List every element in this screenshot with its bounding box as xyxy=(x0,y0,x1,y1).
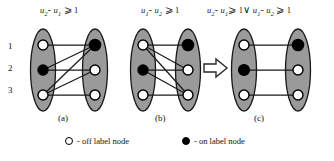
implies-arrow xyxy=(203,57,229,79)
row-label-2: 2 xyxy=(8,63,13,73)
constraint-label-b: u1- u2 ⩾ 1 xyxy=(141,4,180,17)
panel-caption-a: (a) xyxy=(58,113,68,123)
row-label-1: 1 xyxy=(8,41,13,51)
constraint-c-relation: ⩾ xyxy=(228,5,236,15)
constraint-a-sub2: 1 xyxy=(58,10,61,17)
legend-label-on: - on label node xyxy=(194,136,245,146)
right-node-3-a xyxy=(90,90,100,100)
figure-container: 1 2 3 u2- u1 ⩾ 1 u1- u2 ⩾ 1 u2- u1⩾ 1∨ u… xyxy=(0,0,334,161)
row-label-3: 3 xyxy=(8,85,13,95)
left-node-3-a xyxy=(38,90,48,100)
constraint-b-sub2: 2 xyxy=(159,10,162,17)
legend-entry-off: - off label node xyxy=(65,136,129,146)
right-node-2-b xyxy=(183,65,193,75)
constraint-c-rhs-sub2: 2 xyxy=(271,10,274,17)
right-node-3-c xyxy=(293,90,303,100)
constraint-label-a: u2- u1 ⩾ 1 xyxy=(40,4,79,17)
constraint-b-minus: - xyxy=(149,5,152,15)
panel-a xyxy=(26,26,116,114)
panel-c xyxy=(227,26,317,114)
constraint-a-minus: - xyxy=(48,5,51,15)
constraint-a-relation: ⩾ xyxy=(64,5,72,15)
panel-caption-c: (c) xyxy=(254,113,264,123)
right-node-3-b xyxy=(183,90,193,100)
legend-label-off: - off label node xyxy=(77,136,129,146)
left-node-3-b xyxy=(138,90,148,100)
constraint-c-minus: - xyxy=(215,5,218,15)
constraint-b-value: 1 xyxy=(175,5,179,15)
constraint-c-rhs-relation: ⩾ xyxy=(276,5,284,15)
panel-c-graph xyxy=(227,26,317,114)
right-node-2-a xyxy=(90,65,100,75)
left-node-1-c xyxy=(239,40,249,50)
implies-arrow-icon xyxy=(203,57,229,79)
on-label-node-icon xyxy=(182,137,190,145)
panel-caption-b: (b) xyxy=(155,113,166,123)
panel-a-graph xyxy=(26,26,116,114)
left-node-1-b xyxy=(138,40,148,50)
left-node-3-c xyxy=(239,90,249,100)
right-node-1-a xyxy=(89,39,100,50)
constraint-c-rhs-minus: - xyxy=(260,5,263,15)
left-node-2-c xyxy=(239,65,250,76)
constraint-c-connective: ∨ xyxy=(243,5,250,15)
constraint-b-relation: ⩾ xyxy=(165,5,173,15)
legend-entry-on: - on label node xyxy=(182,136,245,146)
constraint-a-value: 1 xyxy=(74,5,78,15)
constraint-c-rhs-value: 1 xyxy=(287,5,291,15)
off-label-node-icon xyxy=(65,137,73,145)
left-node-2-b xyxy=(138,65,148,75)
right-node-1-b xyxy=(182,39,193,50)
right-node-2-c xyxy=(293,65,303,75)
constraint-label-c: u2- u1⩾ 1∨ u1- u2 ⩾ 1 xyxy=(207,4,291,17)
legend: - off label node - on label node xyxy=(0,134,334,154)
left-node-2-a xyxy=(38,65,48,75)
left-node-1-a xyxy=(38,40,48,50)
right-node-1-c xyxy=(292,39,303,50)
